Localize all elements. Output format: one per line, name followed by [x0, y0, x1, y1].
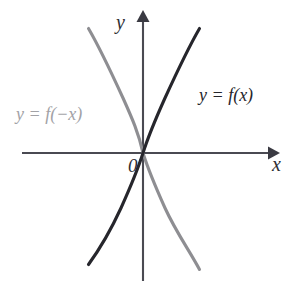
function-curve-label: y = f(x)	[199, 86, 253, 104]
graph-canvas	[0, 0, 296, 290]
x-axis-label: x	[272, 154, 281, 174]
origin-label: 0	[128, 156, 138, 175]
y-axis-arrow-icon	[137, 10, 150, 22]
function-graph-figure: y x 0 y = f(x) y = f(−x)	[0, 0, 296, 290]
y-axis-label: y	[116, 12, 125, 32]
reflected-curve-label: y = f(−x)	[16, 105, 82, 123]
